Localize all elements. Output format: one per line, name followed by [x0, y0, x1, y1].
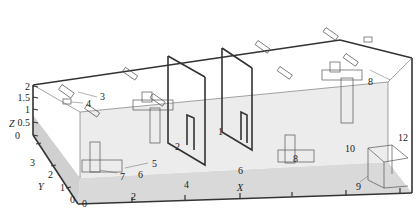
callout-9: 9 [356, 181, 361, 192]
svg-text:2: 2 [25, 81, 30, 92]
svg-text:2: 2 [48, 169, 53, 180]
callout-1: 1 [218, 126, 223, 137]
callout-2: 2 [175, 141, 180, 152]
svg-text:1: 1 [60, 182, 65, 193]
callout-8: 8 [368, 76, 373, 87]
svg-text:0: 0 [82, 198, 87, 209]
svg-text:1.5: 1.5 [18, 92, 31, 103]
svg-text:0: 0 [70, 194, 75, 205]
callout-5: 5 [152, 158, 157, 169]
svg-text:0: 0 [15, 130, 20, 141]
z-axis-label: Z [9, 118, 15, 129]
svg-text:3: 3 [30, 157, 35, 168]
y-axis-label: Y [38, 181, 45, 192]
svg-text:4: 4 [184, 179, 189, 190]
room-diagram: 3 4 5 6 7 2 1 8 9 0 0.5 1 1.5 2 Z 3 2 1 … [0, 0, 419, 214]
callout-6: 6 [138, 169, 143, 180]
svg-text:8: 8 [293, 153, 298, 164]
callout-4: 4 [86, 98, 91, 109]
callout-7: 7 [120, 171, 125, 182]
x-axis-label: X [236, 182, 244, 193]
back-wall [80, 82, 388, 178]
svg-text:1: 1 [25, 104, 30, 115]
svg-text:2: 2 [131, 191, 136, 202]
svg-text:10: 10 [345, 143, 355, 154]
vent-icon [364, 37, 372, 42]
svg-text:6: 6 [238, 165, 243, 176]
svg-text:12: 12 [398, 132, 408, 143]
callout-3: 3 [100, 91, 105, 102]
svg-text:0.5: 0.5 [18, 117, 31, 128]
